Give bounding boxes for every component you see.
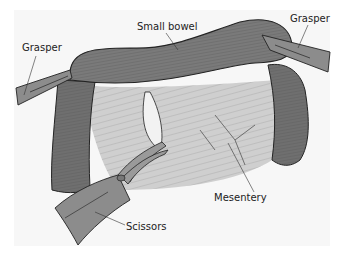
bowel-loop-left — [52, 80, 95, 193]
label-small-bowel: Small bowel — [137, 22, 198, 32]
mesentery — [80, 80, 285, 190]
label-mesentery: Mesentery — [214, 193, 267, 203]
label-grasper-right: Grasper — [290, 14, 330, 24]
illustration — [0, 0, 342, 257]
label-grasper-left: Grasper — [22, 43, 62, 53]
bowel-loop-right — [268, 64, 308, 165]
label-scissors: Scissors — [126, 222, 166, 232]
